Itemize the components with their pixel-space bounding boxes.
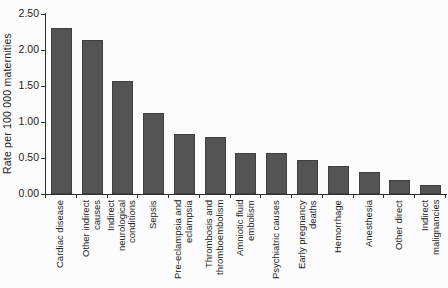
y-axis-tick xyxy=(41,50,45,51)
x-axis-tick xyxy=(322,195,353,198)
y-tick-label: 2.00 xyxy=(4,43,39,56)
maternal-mortality-bar-chart: Rate per 100 000 maternities 2.502.001.5… xyxy=(0,0,448,288)
bar xyxy=(82,40,103,194)
x-label-slot: Amniotic fluidembolism xyxy=(230,200,261,287)
category-label: Pre-eclampsia andeclampsia xyxy=(173,200,194,287)
bar xyxy=(205,137,226,194)
bar-slot xyxy=(415,185,446,194)
y-tick-label: 1.00 xyxy=(4,115,39,128)
bar xyxy=(266,153,287,194)
category-label: Cardiac disease xyxy=(55,200,66,287)
x-axis-tick xyxy=(291,195,322,198)
bar-slot xyxy=(384,180,415,194)
category-label: Psychiatric causes xyxy=(271,200,282,287)
bar xyxy=(174,134,195,194)
bar-slot xyxy=(77,40,108,194)
x-axis-tick xyxy=(137,195,168,198)
category-label: Other indirectcauses xyxy=(81,200,102,287)
x-axis-tick xyxy=(383,195,414,198)
category-label: Hemorrhage xyxy=(333,200,344,287)
x-label-slot: Indirectmalignancies xyxy=(415,200,446,287)
bar-slot xyxy=(231,153,262,194)
x-axis-tick xyxy=(168,195,199,198)
x-label-slot: Thrombosis andthromboembolism xyxy=(199,200,230,287)
bar-slot xyxy=(292,160,323,194)
y-axis-tick xyxy=(41,122,45,123)
y-axis-title: Rate per 100 000 maternities xyxy=(1,12,13,195)
y-axis-tick xyxy=(41,158,45,159)
y-axis-tick xyxy=(41,86,45,87)
x-axis-tick xyxy=(107,195,138,198)
x-axis-tick xyxy=(45,195,76,198)
bar xyxy=(359,172,380,194)
bars-area xyxy=(46,14,446,194)
bar-slot xyxy=(200,137,231,194)
bar-slot xyxy=(108,81,139,194)
x-label-slot: Cardiac disease xyxy=(45,200,76,287)
category-label: Sepsis xyxy=(148,200,159,287)
category-label: Indirectneurologicalconditions xyxy=(106,200,138,287)
bar-slot xyxy=(138,113,169,194)
bar xyxy=(420,185,441,194)
bar xyxy=(143,113,164,194)
x-label-slot: Psychiatric causes xyxy=(261,200,292,287)
y-tick-label: 2.50 xyxy=(4,7,39,20)
y-tick-label: 0.00 xyxy=(4,187,39,200)
bar-slot xyxy=(354,172,385,194)
bar-slot xyxy=(261,153,292,194)
bar xyxy=(328,166,349,194)
x-tick-row xyxy=(45,195,446,198)
bar xyxy=(297,160,318,194)
x-axis-tick xyxy=(76,195,107,198)
bar xyxy=(51,28,72,194)
category-label: Thrombosis andthromboembolism xyxy=(204,200,225,287)
bar-slot xyxy=(169,134,200,194)
category-label: Amniotic fluidembolism xyxy=(235,200,256,287)
x-axis-tick xyxy=(230,195,261,198)
y-axis-tick xyxy=(41,14,45,15)
category-label: Anesthesia xyxy=(364,200,375,287)
x-label-slot: Other indirectcauses xyxy=(76,200,107,287)
x-label-slot: Early pregnancydeaths xyxy=(292,200,323,287)
category-label: Indirectmalignancies xyxy=(420,200,441,287)
x-label-slot: Pre-eclampsia andeclampsia xyxy=(168,200,199,287)
x-axis-tick xyxy=(414,195,446,198)
y-tick-label: 1.50 xyxy=(4,79,39,92)
bar-slot xyxy=(323,166,354,194)
category-label: Early pregnancydeaths xyxy=(297,200,318,287)
x-axis-tick xyxy=(199,195,230,198)
category-label: Other direct xyxy=(394,200,405,287)
x-label-slot: Other direct xyxy=(384,200,415,287)
x-label-slot: Indirectneurologicalconditions xyxy=(107,200,138,287)
bar xyxy=(112,81,133,194)
x-axis-tick xyxy=(353,195,384,198)
x-label-slot: Hemorrhage xyxy=(323,200,354,287)
x-label-row: Cardiac diseaseOther indirectcausesIndir… xyxy=(45,200,446,287)
x-label-slot: Anesthesia xyxy=(353,200,384,287)
x-label-slot: Sepsis xyxy=(138,200,169,287)
x-axis-tick xyxy=(260,195,291,198)
y-tick-label: 0.50 xyxy=(4,151,39,164)
bar xyxy=(389,180,410,194)
bar-slot xyxy=(46,28,77,194)
bar xyxy=(235,153,256,194)
